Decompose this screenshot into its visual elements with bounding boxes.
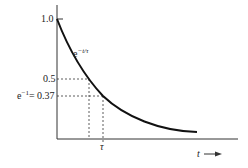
curve-label-exp: −t/τ	[77, 47, 88, 55]
decay-curve	[57, 19, 197, 132]
decay-chart	[0, 0, 248, 168]
y-label-half: 0.5	[43, 74, 56, 84]
x-axis-label: t	[197, 149, 200, 159]
y-label-1: 1.0	[41, 14, 54, 24]
y-label-inv-e: e−1= 0.37	[17, 91, 55, 101]
inv-e-exp: −1	[21, 89, 28, 97]
curve-label: e−t/τ	[73, 49, 89, 59]
x-tick-tau: τ	[100, 142, 104, 152]
t-arrow-head	[215, 152, 222, 157]
inv-e-value: = 0.37	[29, 90, 55, 101]
